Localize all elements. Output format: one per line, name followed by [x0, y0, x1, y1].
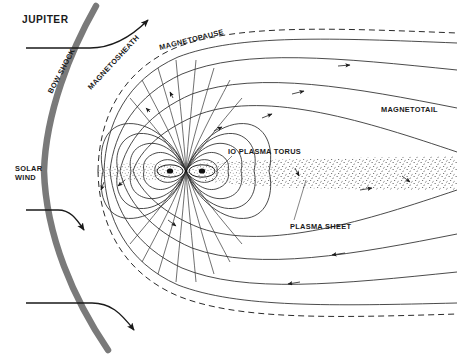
label-plasma-sheet: PLASMA SHEET — [290, 222, 351, 231]
label-magnetopause: MAGNETOPAUSE — [158, 27, 224, 52]
label-solar-wind-line1: SOLAR — [15, 164, 43, 173]
label-jupiter: JUPITER — [22, 14, 69, 25]
diagram-canvas: JUPITER BOW SHOCK MAGNETOSHEATH MAGNETOP… — [0, 0, 457, 356]
label-magnetosheath: MAGNETOSHEATH — [86, 33, 141, 91]
jupiter-magnetosphere-diagram: JUPITER BOW SHOCK MAGNETOSHEATH MAGNETOP… — [0, 0, 457, 356]
label-magnetotail: MAGNETOTAIL — [381, 105, 438, 114]
bow-shock-curve — [44, 6, 108, 350]
label-solar-wind-line2: WIND — [15, 173, 36, 182]
label-io-plasma-torus: IO PLASMA TORUS — [228, 147, 301, 156]
